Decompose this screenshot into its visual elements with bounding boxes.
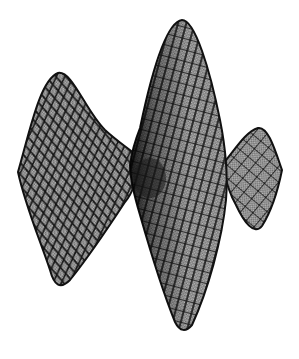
left-lobe — [18, 73, 140, 285]
surface-plot — [0, 0, 299, 359]
saddle-center — [134, 158, 166, 198]
right-lobe — [222, 128, 282, 229]
